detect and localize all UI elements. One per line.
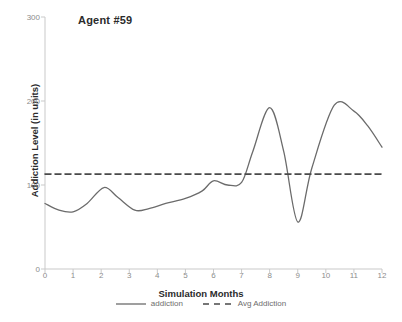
legend-item[interactable]: addiction — [116, 299, 183, 308]
axis-lines — [41, 17, 382, 273]
legend-label: addiction — [151, 299, 183, 308]
legend-label: Avg Addiction — [238, 299, 286, 308]
chart-legend: addictionAvg Addiction — [0, 299, 402, 308]
legend-item[interactable]: Avg Addiction — [203, 299, 286, 308]
chart-container: Agent #59 Addiction Level (in units) Sim… — [0, 0, 402, 322]
series-line-addiction — [45, 102, 382, 223]
data-series-group — [45, 102, 382, 223]
plot-area — [0, 0, 402, 322]
legend-solid-line-icon — [116, 300, 146, 308]
legend-dashed-line-icon — [203, 300, 233, 308]
